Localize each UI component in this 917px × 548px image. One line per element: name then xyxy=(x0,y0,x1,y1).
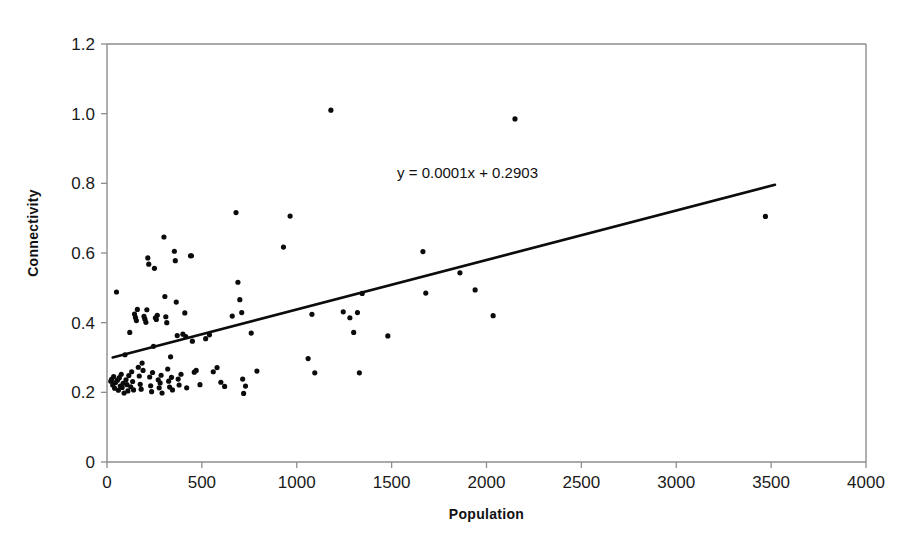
scatter-point xyxy=(214,365,219,370)
x-tick-label: 3000 xyxy=(657,473,695,492)
x-axis-title: Population xyxy=(449,506,524,522)
scatter-point xyxy=(357,370,362,375)
scatter-point xyxy=(182,310,187,315)
scatter-point xyxy=(149,389,154,394)
scatter-point xyxy=(341,309,346,314)
x-tick-label: 1500 xyxy=(373,473,411,492)
scatter-point xyxy=(125,388,130,393)
scatter-point xyxy=(491,313,496,318)
scatter-point xyxy=(512,116,517,121)
scatter-point xyxy=(144,307,149,312)
y-tick-label: 1.0 xyxy=(71,105,95,124)
scatter-point xyxy=(355,310,360,315)
x-tick-label: 4000 xyxy=(847,473,885,492)
scatter-point xyxy=(218,380,223,385)
y-axis-title: Connectivity xyxy=(25,189,41,277)
scatter-point xyxy=(420,249,425,254)
scatter-point xyxy=(147,374,152,379)
scatter-point xyxy=(249,331,254,336)
scatter-point xyxy=(197,382,202,387)
scatter-point xyxy=(159,390,164,395)
scatter-point xyxy=(140,360,145,365)
scatter-point xyxy=(312,370,317,375)
scatter-point xyxy=(127,330,132,335)
x-tick-label: 0 xyxy=(102,473,111,492)
scatter-point xyxy=(161,234,166,239)
scatter-point xyxy=(155,313,160,318)
scatter-point xyxy=(152,266,157,271)
scatter-point xyxy=(239,310,244,315)
scatter-point xyxy=(163,314,168,319)
scatter-point xyxy=(203,336,208,341)
scatter-point xyxy=(309,312,314,317)
scatter-point xyxy=(169,375,174,380)
scatter-point xyxy=(211,369,216,374)
scatter-point xyxy=(288,214,293,219)
y-tick-label: 0.8 xyxy=(71,174,95,193)
scatter-point xyxy=(184,385,189,390)
regression-equation-label: y = 0.0001x + 0.2903 xyxy=(397,164,538,181)
y-tick-label: 0 xyxy=(86,453,95,472)
scatter-point xyxy=(146,262,151,267)
scatter-point xyxy=(162,294,167,299)
scatter-point xyxy=(170,387,175,392)
chart-canvas: 00.20.40.60.81.01.2 05001000150020002500… xyxy=(0,0,917,548)
scatter-point xyxy=(158,380,163,385)
y-tick-label: 0.4 xyxy=(71,314,95,333)
scatter-point xyxy=(235,280,240,285)
scatter-point xyxy=(111,374,116,379)
scatter-point xyxy=(145,255,150,260)
x-tick-label: 1000 xyxy=(278,473,316,492)
scatter-point xyxy=(175,333,180,338)
x-tick-label: 2500 xyxy=(562,473,600,492)
scatter-point xyxy=(165,366,170,371)
scatter-point xyxy=(143,320,148,325)
scatter-point xyxy=(457,270,462,275)
scatter-point xyxy=(138,382,143,387)
scatter-point xyxy=(254,369,259,374)
scatter-point xyxy=(237,297,242,302)
scatter-point xyxy=(129,369,134,374)
scatter-point xyxy=(139,387,144,392)
x-tick-label: 3500 xyxy=(752,473,790,492)
scatter-point xyxy=(136,365,141,370)
scatter-point xyxy=(164,320,169,325)
scatter-point xyxy=(150,370,155,375)
scatter-point xyxy=(233,210,238,215)
scatter-point xyxy=(174,300,179,305)
scatter-point xyxy=(189,253,194,258)
scatter-point xyxy=(177,382,182,387)
scatter-point xyxy=(178,372,183,377)
x-tick-label: 2000 xyxy=(468,473,506,492)
scatter-point xyxy=(222,384,227,389)
scatter-point xyxy=(351,330,356,335)
scatter-point xyxy=(168,354,173,359)
scatter-point xyxy=(135,307,140,312)
scatter-point xyxy=(241,391,246,396)
scatter-point xyxy=(131,387,136,392)
scatter-point xyxy=(176,377,181,382)
scatter-point xyxy=(385,333,390,338)
scatter-point xyxy=(137,373,142,378)
scatter-point xyxy=(240,377,245,382)
y-tick-label: 1.2 xyxy=(71,35,95,54)
scatter-point xyxy=(134,318,139,323)
scatter-point xyxy=(328,108,333,113)
scatter-point xyxy=(230,313,235,318)
scatter-point xyxy=(140,368,145,373)
scatter-point xyxy=(423,290,428,295)
scatter-point xyxy=(123,377,128,382)
scatter-point xyxy=(130,379,135,384)
scatter-point xyxy=(157,385,162,390)
y-tick-label: 0.2 xyxy=(71,383,95,402)
scatter-point xyxy=(119,372,124,377)
scatter-point xyxy=(281,245,286,250)
scatter-point xyxy=(473,287,478,292)
scatter-point xyxy=(763,214,768,219)
scatter-point xyxy=(190,339,195,344)
y-tick-label: 0.6 xyxy=(71,244,95,263)
scatter-point xyxy=(173,258,178,263)
scatter-point xyxy=(148,383,153,388)
scatter-point xyxy=(114,289,119,294)
scatter-chart-figure: 00.20.40.60.81.01.2 05001000150020002500… xyxy=(0,0,917,548)
